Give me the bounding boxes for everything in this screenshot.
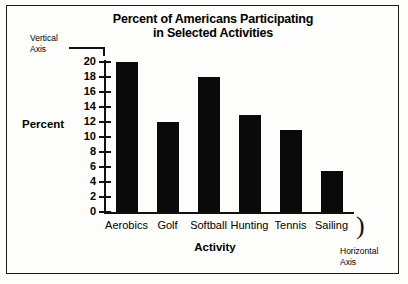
y-axis-tick [99,181,111,183]
horizontal-axis-annotation: Horizontal Axis [340,246,378,267]
bar-sailing [321,171,343,212]
y-axis-tick-label: 6 [56,161,96,172]
chart-figure: Percent of Americans Participating in Se… [0,0,408,284]
chart-title-line1: Percent of Americans Participating [113,12,313,26]
y-axis-tick-label: 2 [56,191,96,202]
x-axis-title: Activity [160,241,270,253]
y-axis-tick-label: 8 [56,146,96,157]
chart-title-line2: in Selected Activities [78,27,348,41]
y-axis-tick-label: 18 [56,71,96,82]
x-axis-line [104,212,354,214]
y-axis-tick [99,136,111,138]
vertical-axis-annotation-line1: Vertical [30,33,58,43]
y-axis-tick [99,121,111,123]
y-axis-tick [99,91,111,93]
y-axis-tick-label: 16 [56,86,96,97]
y-axis-tick [99,61,111,63]
y-axis-tick [99,76,111,78]
y-axis-tick [99,106,111,108]
y-axis-tick [99,151,111,153]
y-axis-tick-label: 4 [56,176,96,187]
bar-aerobics [116,62,138,212]
y-axis-tick-label: 0 [56,206,96,217]
y-axis-title: Percent [22,118,64,130]
vertical-axis-annotation-line2: Axis [30,44,58,55]
chart-title: Percent of Americans Participating in Se… [78,13,348,40]
y-axis-tick [99,196,111,198]
y-axis-tick [99,166,111,168]
y-axis-tick-label: 10 [56,131,96,142]
horizontal-axis-annotation-line1: Horizontal [340,246,378,256]
bar-hunting [239,115,261,213]
horizontal-axis-annotation-line2: Axis [340,257,378,268]
bar-softball [198,77,220,212]
bar-golf [157,122,179,212]
y-axis-tick-label: 14 [56,101,96,112]
bar-tennis [280,130,302,213]
y-axis-tick [99,211,111,213]
y-axis-tick-label: 20 [56,56,96,67]
vertical-axis-annotation: Vertical Axis [30,33,58,54]
horizontal-axis-brace-icon: ) [356,214,370,240]
